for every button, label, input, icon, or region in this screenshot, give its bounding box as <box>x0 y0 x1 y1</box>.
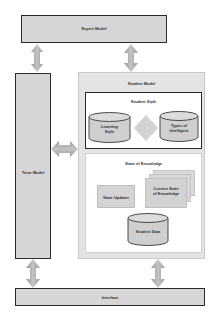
interface-label: Interface <box>16 295 204 300</box>
interface-box: Interface <box>15 288 205 306</box>
student-data-cylinder-icon <box>0 0 215 321</box>
student-data-label: Student Data <box>128 229 168 234</box>
